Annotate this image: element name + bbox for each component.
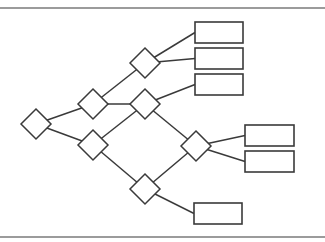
decision-diamond-d1 bbox=[78, 89, 108, 119]
decision-diamond-d6 bbox=[130, 174, 160, 204]
leaf-nodes bbox=[194, 22, 294, 224]
decision-diamond-d4 bbox=[130, 89, 160, 119]
leaf-box-l2 bbox=[195, 74, 243, 95]
leaf-box-l4 bbox=[245, 151, 294, 172]
decision-diamond-d3 bbox=[130, 48, 160, 78]
leaf-box-l1 bbox=[195, 48, 243, 69]
leaf-box-l0 bbox=[195, 22, 243, 43]
leaf-box-l5 bbox=[194, 203, 242, 224]
decision-diamond-d2 bbox=[78, 130, 108, 160]
decision-diamond-d0 bbox=[21, 109, 51, 139]
decision-diamond-d5 bbox=[181, 131, 211, 161]
decision-tree-diagram bbox=[0, 0, 325, 242]
leaf-box-l3 bbox=[245, 125, 294, 146]
